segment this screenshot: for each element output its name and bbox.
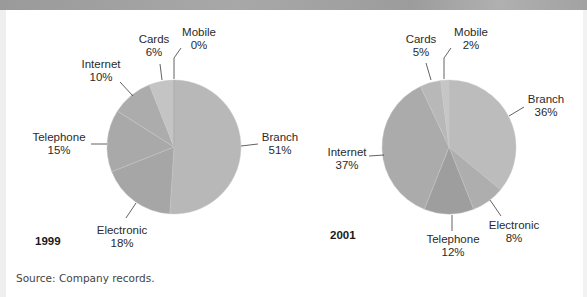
label-2001-telephone-name: Telephone [426,233,479,245]
pie-charts: Mobile 0% Cards 6% Internet 10% Telephon… [0,0,587,297]
label-1999-branch-name: Branch [262,131,298,143]
label-2001-branch-name: Branch [528,93,564,105]
label-1999-telephone-name: Telephone [32,131,85,143]
year-label-1999: 1999 [35,235,61,247]
label-2001-cards-pct: 5% [413,46,430,58]
label-1999-internet-pct: 10% [89,71,112,83]
label-1999-branch-pct: 51% [268,144,291,156]
label-2001-internet-name: Internet [328,146,368,158]
pie-chart-2001 [382,80,516,214]
label-2001-branch-pct: 36% [534,106,557,118]
pie-slice-branch [170,80,241,214]
label-2001-telephone-pct: 12% [441,246,464,258]
label-1999-internet-name: Internet [82,58,122,70]
label-2001-cards-name: Cards [406,33,437,45]
label-2001-internet-pct: 37% [335,159,358,171]
label-1999-mobile-pct: 0% [191,39,208,51]
year-label-2001: 2001 [330,229,356,241]
label-1999-telephone-pct: 15% [47,144,70,156]
label-2001-electronic-name: Electronic [489,219,540,231]
label-1999-cards-pct: 6% [146,46,163,58]
label-2001-mobile-pct: 2% [463,39,480,51]
pie-chart-1999 [107,80,241,214]
source-note: Source: Company records. [16,272,155,284]
label-2001-electronic-pct: 8% [506,232,523,244]
label-1999-electronic-name: Electronic [97,224,148,236]
label-1999-electronic-pct: 18% [110,237,133,249]
label-1999-cards-name: Cards [139,33,170,45]
label-1999-mobile-name: Mobile [182,26,216,38]
label-2001-mobile-name: Mobile [454,26,488,38]
